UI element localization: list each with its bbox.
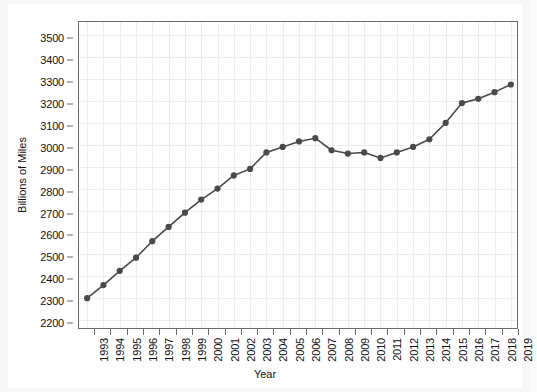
x-tick-mark (453, 329, 454, 335)
x-tick-mark (192, 329, 193, 335)
x-tick-label: 1996 (147, 338, 159, 362)
x-tick-mark (290, 329, 291, 335)
x-tick-mark (94, 329, 95, 335)
x-tick-mark (371, 329, 372, 335)
x-tick-label: 1993 (98, 338, 110, 362)
x-tick-mark (469, 329, 470, 335)
x-tick-label: 2006 (310, 338, 322, 362)
x-tick-mark (387, 329, 388, 335)
x-tick-mark (436, 329, 437, 335)
x-tick-label: 2003 (261, 338, 273, 362)
x-tick-mark (143, 329, 144, 335)
x-tick-mark (306, 329, 307, 335)
x-tick-label: 2012 (408, 338, 420, 362)
x-tick-label: 1998 (180, 338, 192, 362)
x-tick-mark (518, 329, 519, 335)
x-tick-mark (404, 329, 405, 335)
x-tick-label: 2019 (522, 338, 534, 362)
x-tick-mark (127, 329, 128, 335)
x-tick-label: 1994 (114, 338, 126, 362)
x-tick-mark (485, 329, 486, 335)
x-tick-label: 1997 (163, 338, 175, 362)
x-tick-label: 2011 (391, 338, 403, 361)
x-tick-label: 2004 (277, 338, 289, 362)
x-tick-label: 2002 (245, 338, 257, 362)
x-tick-label: 2016 (473, 338, 485, 362)
x-tick-mark (241, 329, 242, 335)
x-tick-mark (176, 329, 177, 335)
x-axis-title: Year (8, 368, 522, 380)
x-tick-label: 2010 (375, 338, 387, 362)
x-tick-label: 2000 (212, 338, 224, 362)
x-tick-mark (322, 329, 323, 335)
x-tick-label: 1999 (196, 338, 208, 362)
x-tick-label: 2013 (424, 338, 436, 362)
x-tick-label: 2015 (457, 338, 469, 362)
x-tick-mark (110, 329, 111, 335)
x-tick-mark (208, 329, 209, 335)
x-tick-mark (273, 329, 274, 335)
x-tick-mark (355, 329, 356, 335)
x-tick-mark (257, 329, 258, 335)
x-tick-mark (502, 329, 503, 335)
x-tick-label: 2017 (489, 338, 501, 362)
x-tick-label: 2008 (343, 338, 355, 362)
x-tick-label: 2018 (506, 338, 518, 362)
x-tick-mark (159, 329, 160, 335)
x-tick-label: 1995 (131, 338, 143, 362)
chart-canvas: 2200230024002500260027002800290030003100… (8, 4, 522, 388)
x-tick-label: 2009 (359, 338, 371, 362)
x-tick-label: 2001 (229, 338, 241, 362)
x-axis: 1993199419951996199719981999200020012002… (8, 4, 537, 392)
x-tick-label: 2014 (440, 338, 452, 362)
x-tick-mark (225, 329, 226, 335)
x-tick-mark (420, 329, 421, 335)
x-tick-label: 2007 (326, 338, 338, 362)
x-tick-label: 2005 (294, 338, 306, 362)
x-tick-mark (339, 329, 340, 335)
